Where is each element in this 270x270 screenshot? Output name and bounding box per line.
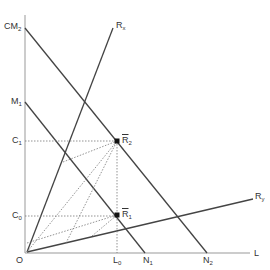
- label-c1: C1: [12, 136, 22, 146]
- label-origin: O: [16, 256, 23, 265]
- label-l0: L0: [113, 256, 121, 266]
- label-ry: Ry: [255, 192, 265, 202]
- label-n1: N1: [143, 256, 153, 266]
- label-m1: M1: [11, 97, 22, 107]
- label-n2: N2: [203, 256, 213, 266]
- ray-rx: [27, 28, 113, 252]
- diagram-lines: [0, 0, 270, 270]
- dotted-guides: [25, 141, 117, 253]
- label-cm2: CM2: [4, 22, 21, 32]
- point-r1: [115, 213, 120, 218]
- label-r2: R2: [122, 136, 132, 146]
- label-r1: R1: [122, 210, 132, 220]
- label-l-axis: L: [254, 249, 259, 258]
- budget-line-m1-n1: [25, 102, 145, 253]
- ray-ry: [27, 199, 253, 252]
- label-c0: C0: [12, 211, 22, 221]
- budget-diagram: CM2 M1 C1 C0 O L0 N1 N2 L Rx Ry R2 R1: [0, 0, 270, 270]
- point-r2: [115, 139, 120, 144]
- label-rx: Rx: [116, 21, 126, 31]
